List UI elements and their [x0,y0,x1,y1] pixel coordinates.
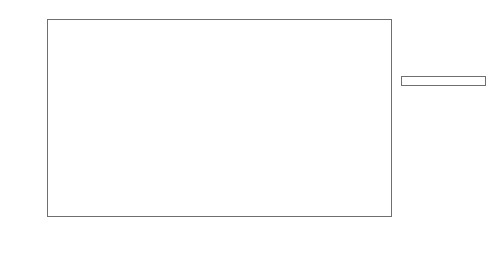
bars-layer [47,19,392,217]
stacked-bar-chart [0,0,489,276]
x-axis-tick-labels [47,221,392,255]
chart-legend [401,76,486,86]
